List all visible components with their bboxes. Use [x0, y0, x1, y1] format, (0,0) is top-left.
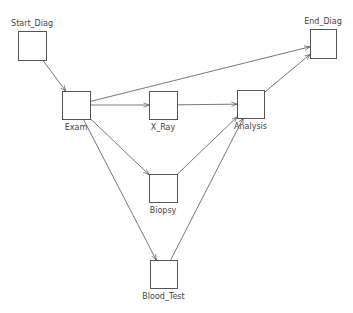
node-label: Start_Diag: [11, 19, 53, 28]
node-exam[interactable]: Exam: [63, 92, 91, 133]
edge-analysis-to-end: [264, 54, 310, 92]
edge-start-to-exam: [43, 60, 66, 91]
node-box[interactable]: [238, 91, 265, 119]
edge-exam-to-biopsy: [90, 118, 149, 174]
node-biopsy[interactable]: Biopsy: [150, 175, 178, 216]
node-box[interactable]: [150, 92, 178, 120]
edge-xray-to-analysis: [177, 104, 237, 105]
node-xray[interactable]: X_Ray: [150, 92, 178, 133]
node-box[interactable]: [63, 92, 91, 120]
node-label: Analysis: [234, 122, 267, 131]
node-box[interactable]: [311, 30, 337, 59]
node-label: Biopsy: [150, 206, 177, 215]
edge-biopsy-to-analysis: [177, 117, 237, 175]
edges-layer: [43, 47, 310, 260]
node-box[interactable]: [151, 261, 178, 289]
edge-blood-to-analysis: [171, 118, 244, 260]
diagram-canvas: Start_DiagExamX_RayAnalysisEnd_DiagBiops…: [0, 0, 353, 313]
nodes-layer: Start_DiagExamX_RayAnalysisEnd_DiagBiops…: [11, 17, 342, 301]
node-label: X_Ray: [151, 123, 176, 132]
edge-exam-to-end: [90, 47, 310, 102]
node-label: End_Diag: [304, 17, 342, 26]
node-box[interactable]: [150, 175, 178, 203]
edge-exam-to-blood: [83, 119, 156, 260]
node-blood[interactable]: Blood_Test: [142, 261, 184, 302]
node-start[interactable]: Start_Diag: [11, 19, 53, 61]
node-box[interactable]: [19, 32, 47, 61]
node-label: Exam: [65, 123, 88, 132]
node-analysis[interactable]: Analysis: [234, 91, 267, 132]
node-end[interactable]: End_Diag: [304, 17, 342, 59]
node-label: Blood_Test: [142, 292, 184, 301]
